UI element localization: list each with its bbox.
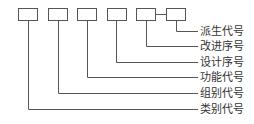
code-box-6 xyxy=(167,9,186,21)
code-box-2 xyxy=(49,9,68,21)
code-box-3 xyxy=(78,9,97,21)
label-category-code: 类别代号 xyxy=(200,103,244,116)
code-box-5 xyxy=(137,9,156,21)
label-design-number: 设计序号 xyxy=(200,56,244,69)
leader-design xyxy=(117,21,199,63)
label-derived-code: 派生代号 xyxy=(200,25,244,38)
leader-improvement xyxy=(147,21,199,47)
label-improvement-number: 改进序号 xyxy=(200,40,244,53)
leader-derived xyxy=(177,21,199,32)
leader-category xyxy=(29,21,199,110)
label-group-code: 组别代号 xyxy=(200,87,244,100)
label-function-code: 功能代号 xyxy=(200,71,244,84)
leader-function xyxy=(88,21,199,78)
code-box-4 xyxy=(108,9,127,21)
code-box-1 xyxy=(19,9,38,21)
code-structure-diagram: 派生代号 改进序号 设计序号 功能代号 组别代号 类别代号 xyxy=(0,0,254,124)
